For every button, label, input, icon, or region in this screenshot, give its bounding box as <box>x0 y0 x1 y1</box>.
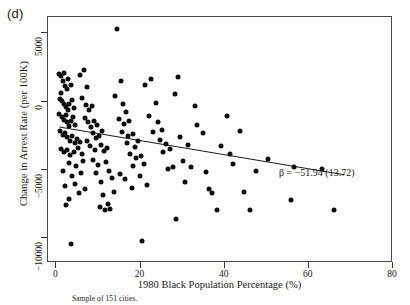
scatter-point <box>80 95 85 100</box>
scatter-point <box>83 187 88 192</box>
scatter-point <box>88 125 93 130</box>
scatter-point <box>104 145 109 150</box>
scatter-point <box>165 166 170 171</box>
scatter-point <box>137 174 142 179</box>
scatter-point <box>126 118 131 123</box>
scatter-point <box>100 129 105 134</box>
scatter-point <box>107 168 112 173</box>
scatter-point <box>64 147 69 152</box>
x-tick-mark <box>224 262 225 268</box>
scatter-point <box>195 122 200 127</box>
figure-caption: Sample of 151 cities. <box>72 294 137 303</box>
scatter-point <box>69 241 74 246</box>
scatter-point <box>79 151 84 156</box>
scatter-point <box>185 143 190 148</box>
scatter-point <box>120 102 125 107</box>
x-tick-mark <box>308 262 309 268</box>
scatter-point <box>125 141 130 146</box>
y-tick-label: 5000 <box>34 37 44 56</box>
scatter-point <box>218 144 223 149</box>
scatter-point <box>144 183 149 188</box>
scatter-point <box>189 165 194 170</box>
x-axis-label: 1980 Black Population Percentage (%) <box>47 279 392 290</box>
scatter-point <box>63 113 68 118</box>
scatter-point <box>61 71 66 76</box>
scatter-point <box>113 94 118 99</box>
scatter-point <box>231 161 236 166</box>
scatter-point <box>332 207 337 212</box>
scatter-point <box>141 161 146 166</box>
scatter-point <box>97 133 102 138</box>
scatter-point <box>117 172 122 177</box>
y-axis-ticks: 50000−5000−10000 <box>0 0 47 305</box>
scatter-point <box>228 152 233 157</box>
scatter-point <box>265 157 270 162</box>
scatter-point <box>84 85 89 90</box>
scatter-point <box>109 176 114 181</box>
scatter-point <box>128 151 133 156</box>
regression-line <box>48 17 392 262</box>
scatter-point <box>116 116 121 121</box>
y-tick: −5000 <box>0 169 47 170</box>
scatter-point <box>180 159 185 164</box>
scatter-point <box>58 90 63 95</box>
scatter-point <box>108 207 113 212</box>
scatter-point <box>174 216 179 221</box>
scatter-point <box>101 193 106 198</box>
scatter-point <box>123 110 128 115</box>
scatter-point <box>159 127 164 132</box>
beta-annotation: β = −51.94 (13.72) <box>279 167 355 178</box>
scatter-point <box>254 168 259 173</box>
y-tick-label: −5000 <box>34 174 44 198</box>
plot-area <box>47 16 392 262</box>
scatter-point <box>183 180 188 185</box>
scatter-point <box>148 76 153 81</box>
scatter-point <box>64 87 69 92</box>
scatter-point <box>138 153 143 158</box>
scatter-point <box>66 160 71 165</box>
scatter-point <box>193 103 198 108</box>
scatter-point <box>76 145 81 150</box>
scatter-point <box>142 83 147 88</box>
scatter-point <box>77 191 82 196</box>
x-tick-label: 0 <box>53 269 58 279</box>
scatter-point <box>112 189 117 194</box>
scatter-point <box>99 180 104 185</box>
y-tick-label: 0 <box>34 105 44 110</box>
scatter-point <box>139 239 144 244</box>
scatter-point <box>118 78 123 83</box>
y-tick: 5000 <box>0 32 47 33</box>
scatter-point <box>62 184 67 189</box>
scatter-point <box>177 134 182 139</box>
scatter-point <box>92 147 97 152</box>
scatter-point <box>132 144 137 149</box>
scatter-point <box>247 207 252 212</box>
scatter-point <box>72 182 77 187</box>
x-tick-label: 40 <box>219 269 229 279</box>
scatter-point <box>61 169 66 174</box>
scatter-point <box>119 129 124 134</box>
scatter-point <box>81 67 86 72</box>
scatter-point <box>122 176 127 181</box>
scatter-point <box>73 122 78 127</box>
scatter-point <box>98 142 103 147</box>
scatter-point <box>153 101 158 106</box>
scatter-point <box>224 114 229 119</box>
scatter-point <box>66 76 71 81</box>
scatter-point <box>105 201 110 206</box>
scatter-point <box>63 202 68 207</box>
scatter-point <box>161 150 166 155</box>
scatter-point <box>215 208 220 213</box>
scatter-point <box>94 170 99 175</box>
scatter-point <box>129 185 134 190</box>
scatter-point <box>115 26 120 31</box>
x-tick-mark <box>55 262 56 268</box>
scatter-point <box>131 163 136 168</box>
scatter-point <box>71 105 76 110</box>
scatter-point <box>77 140 82 145</box>
x-tick-mark <box>392 262 393 268</box>
scatter-point <box>168 146 173 151</box>
scatter-point <box>96 162 101 167</box>
y-tick: −10000 <box>0 237 47 238</box>
scatter-point <box>74 163 79 168</box>
